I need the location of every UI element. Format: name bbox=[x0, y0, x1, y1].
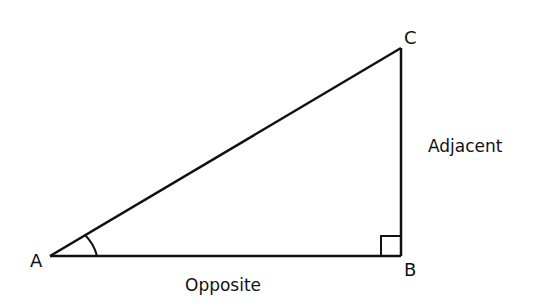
triangle-diagram: A B C Adjacent Opposite bbox=[0, 0, 554, 307]
side-label-adjacent: Adjacent bbox=[428, 136, 503, 156]
side-label-opposite: Opposite bbox=[185, 275, 261, 295]
angle-arc-a bbox=[85, 235, 97, 256]
vertex-label-b: B bbox=[404, 259, 416, 280]
vertex-label-c: C bbox=[404, 27, 417, 48]
right-angle-marker-b bbox=[381, 236, 401, 256]
side-ac-hypotenuse bbox=[50, 48, 401, 256]
vertex-label-a: A bbox=[30, 250, 43, 271]
triangle-svg: A B C Adjacent Opposite bbox=[0, 0, 554, 307]
